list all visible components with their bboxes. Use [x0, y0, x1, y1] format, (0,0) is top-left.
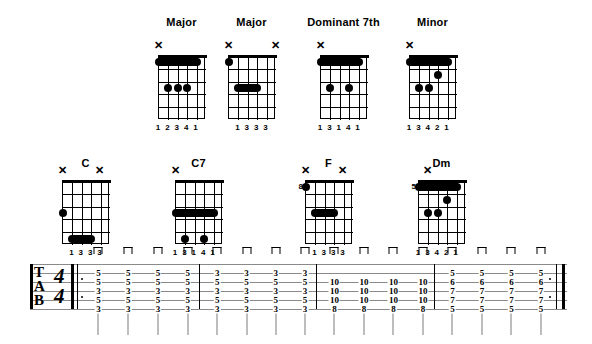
fingering-number: 3 — [263, 123, 267, 132]
string-muted-icon: ✕ — [405, 40, 414, 51]
repeat-start-thick-barline — [71, 264, 74, 309]
time-signature-bottom: 4 — [54, 286, 65, 306]
strum-down-icon — [124, 247, 133, 254]
fingering-number: 3 — [416, 123, 420, 132]
time-signature: 44 — [54, 266, 65, 306]
barre-bar — [415, 183, 461, 191]
string-muted-icon: ✕ — [95, 165, 104, 176]
strum-down-icon — [536, 247, 545, 254]
finger-dot — [183, 84, 191, 92]
fingering-number: 1 — [69, 248, 73, 257]
fingering-number: 4 — [184, 123, 188, 132]
fret-line — [306, 194, 353, 195]
barre-bar — [406, 58, 452, 66]
tab-fret-number: 3 — [273, 305, 280, 314]
chord-diagram: C7✕13141 — [175, 180, 222, 244]
strum-down-icon — [271, 247, 280, 254]
finger-dot — [200, 235, 208, 243]
fingering-number: 3 — [175, 123, 179, 132]
strum-down-icon — [359, 247, 368, 254]
fret-line — [63, 232, 110, 233]
fret-line — [306, 232, 353, 233]
tab-fret-number: 5 — [508, 305, 515, 314]
fingering-number: 1 — [444, 123, 448, 132]
nut-bar — [305, 180, 354, 183]
fingering-number: 1 — [318, 123, 322, 132]
strum-down-icon — [448, 247, 457, 254]
string-muted-icon: ✕ — [338, 165, 347, 176]
staff-line — [30, 291, 567, 292]
nut-bar — [175, 180, 224, 183]
tab-clef: TAB — [34, 265, 45, 307]
strum-down-icon — [301, 247, 310, 254]
fingering-number: 4 — [426, 123, 430, 132]
tab-clef-letter: A — [34, 279, 45, 293]
fret-line — [63, 194, 110, 195]
barre-bar — [311, 209, 338, 217]
tab-fret-number: 3 — [184, 305, 191, 314]
fingering-number: 4 — [346, 123, 350, 132]
tab-staff: TAB4455353553535535355353353533535335353… — [30, 264, 567, 309]
chord-name: Dominant 7th — [292, 16, 395, 28]
fret-line — [419, 207, 466, 208]
finger-dot — [326, 84, 334, 92]
fingering-number: 1 — [156, 123, 160, 132]
repeat-dot — [549, 296, 551, 298]
fret-line — [229, 69, 276, 70]
measure-barline — [199, 264, 200, 309]
fretboard-grid — [62, 180, 109, 244]
finger-dot — [59, 209, 67, 217]
repeat-start-thin-barline — [77, 264, 78, 309]
nut-bar — [62, 180, 111, 183]
fingering-number: 1 — [193, 123, 197, 132]
chord-diagram: F✕✕81333 — [305, 180, 352, 244]
finger-dot — [443, 196, 451, 204]
fret-line — [410, 107, 457, 108]
tab-fret-number: 3 — [125, 305, 132, 314]
strum-down-icon — [330, 247, 339, 254]
string-line — [267, 56, 268, 120]
tab-fret-number: 3 — [214, 305, 221, 314]
fretboard-grid — [418, 180, 465, 244]
staff-line — [30, 282, 567, 283]
string-muted-icon: ✕ — [224, 40, 233, 51]
barre-bar — [317, 58, 363, 66]
strum-down-icon — [242, 247, 251, 254]
staff-line — [30, 309, 567, 310]
string-line — [101, 181, 102, 245]
fret-line — [321, 69, 368, 70]
nut-bar — [228, 55, 277, 58]
time-signature-top: 4 — [54, 266, 65, 286]
strum-down-icon — [418, 247, 427, 254]
fingering-number: 3 — [322, 248, 326, 257]
fingering-number: 1 — [312, 248, 316, 257]
fret-line — [419, 232, 466, 233]
chord-diagram: Major✕12341 — [158, 55, 205, 119]
repeat-dot — [81, 296, 83, 298]
fret-line — [159, 69, 206, 70]
fretboard-grid — [305, 180, 352, 244]
fret-line — [419, 194, 466, 195]
fretboard-grid — [320, 55, 367, 119]
fret-line — [229, 107, 276, 108]
tab-fret-number: 3 — [95, 305, 102, 314]
finger-dot — [225, 58, 233, 66]
tab-fret-number: 8 — [331, 305, 338, 314]
fret-line — [176, 207, 223, 208]
staff-left-edge — [30, 264, 33, 309]
fret-line — [176, 219, 223, 220]
fret-line — [63, 219, 110, 220]
strum-down-icon — [213, 247, 222, 254]
string-line — [344, 181, 345, 245]
tab-fret-number: 3 — [302, 305, 309, 314]
repeat-dot — [549, 278, 551, 280]
fingering-number: 2 — [435, 123, 439, 132]
fretboard-grid — [409, 55, 456, 119]
repeat-end-thick-barline — [562, 264, 565, 309]
string-muted-icon: ✕ — [154, 40, 163, 51]
tab-fret-number: 8 — [390, 305, 397, 314]
finger-dot — [174, 84, 182, 92]
staff-line — [30, 273, 567, 274]
finger-dot — [164, 84, 172, 92]
fret-line — [159, 82, 206, 83]
